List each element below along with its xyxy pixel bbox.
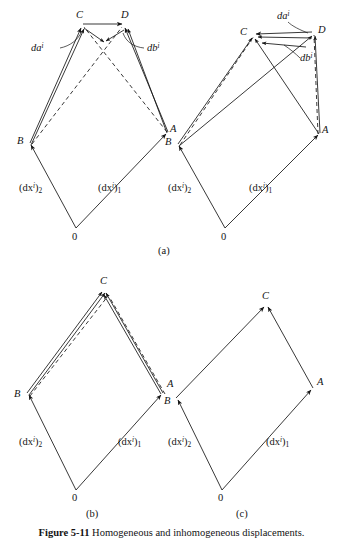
da-text: da [31,42,42,53]
figure-caption-text: Homogeneous and inhomogeneous displaceme… [92,527,304,538]
vertex-label-origin-a-left: 0 [72,232,77,243]
panel-a-right-diagram [178,22,320,228]
leader-da [288,22,308,33]
da-text: da [277,10,288,21]
dx1-open: (dx [98,182,112,193]
edge-B-C2 [29,293,105,395]
vertex-label-origin-c: 0 [218,493,223,504]
figure-caption: Figure 5-11 Homogeneous and inhomogeneou… [0,527,343,538]
vertex-label-C-a-left: C [76,10,83,21]
vector-label-da-a-left: dai [31,43,44,54]
vector-label-db-a-left: dbi [147,43,160,54]
vertex-label-C-b: C [100,276,107,287]
vertex-label-A-c: A [317,377,323,388]
vertex-label-A-b: A [167,379,173,390]
vertex-label-B-a-left: B [17,136,23,147]
da-sup: i [288,10,290,18]
vertex-label-D-a-left: D [121,10,129,21]
vector-da [258,37,312,38]
dx1-sub: 1 [286,440,290,449]
db-text: db [300,52,311,63]
panel-label-a: (a) [158,245,170,256]
edge-B-C [178,38,252,144]
vector-label-dx1-a-right: (dxi)1 [249,183,272,194]
vertex-label-D-a-right: D [318,25,326,36]
panel-b-diagram [27,292,165,490]
dx1-open: (dx [266,436,280,447]
dx2-sub: 2 [188,186,192,195]
dx1-open: (dx [249,182,263,193]
leader-db [123,33,144,48]
dx1-open: (dx [118,436,132,447]
dx2-sub: 2 [39,440,43,449]
dx2-open: (dx [19,182,33,193]
vector-da [84,28,104,42]
edge-0-A [225,135,318,228]
dx1-sub: 1 [118,186,122,195]
panel-label-b: (b) [86,508,98,519]
figure-caption-prefix: Figure 5-11 [39,527,90,538]
vector-label-dx1-a-left: (dxi)1 [98,183,121,194]
vector-db [106,30,124,41]
leader-db [284,45,300,58]
edge-B-D [179,36,312,146]
dashed-B-C [180,36,254,145]
vector-label-dx2-a-left: (dxi)2 [19,183,42,194]
vector-label-da-a-right: dai [277,11,290,22]
vertex-label-origin-a-right: 0 [221,232,226,243]
vertex-label-B-c: B [164,396,170,407]
dx2-open: (dx [168,436,182,447]
edge-A-C2 [104,295,161,394]
edge-B-C [27,292,102,393]
panel-a-left-diagram [30,24,168,228]
panel-c-diagram [176,307,313,490]
edge-0-A [76,134,166,228]
vector-label-dx2-b: (dxi)2 [19,437,42,448]
edge-B-C [176,307,264,398]
dashed-B-C [30,296,108,396]
edge-C-D [256,32,312,34]
vector-label-dx1-c: (dxi)1 [266,437,289,448]
dashed-A-C [110,298,165,394]
panel-label-c: (c) [236,508,248,519]
dx2-sub: 2 [188,440,192,449]
dx2-open: (dx [168,182,182,193]
vertex-label-A-a-left: A [170,124,176,135]
dx2-sub: 2 [39,186,43,195]
da-sup: i [42,42,44,50]
dx2-open: (dx [19,436,33,447]
dx1-sub: 1 [269,186,273,195]
db-sup: i [158,42,160,50]
vertex-label-B-a-right: B [165,137,171,148]
vector-label-dx1-b: (dxi)1 [118,437,141,448]
vertex-label-A-a-right: A [322,125,328,136]
vertex-label-C-a-right: C [240,27,247,38]
vector-label-dx2-c: (dxi)2 [168,437,191,448]
db-sup: i [311,52,313,60]
vertex-label-B-b: B [14,389,20,400]
vector-label-db-a-right: dbi [300,53,313,64]
db-text: db [147,42,158,53]
vertex-label-C-c: C [262,291,269,302]
dx1-sub: 1 [138,440,142,449]
edge-A-C [106,293,163,393]
vertex-label-origin-b: 0 [72,493,77,504]
edge-A-C [268,307,313,388]
vector-label-dx2-a-right: (dxi)2 [168,183,191,194]
